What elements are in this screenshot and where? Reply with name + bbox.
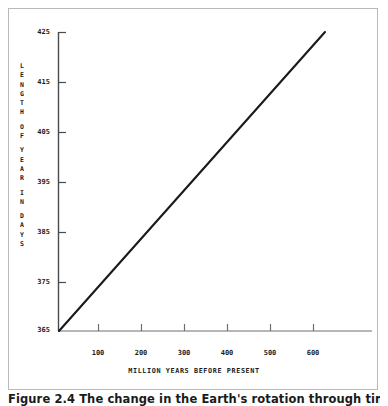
data-series-line xyxy=(59,32,325,331)
y-tick-marks xyxy=(59,33,67,283)
figure-caption: Figure 2.4 The change in the Earth's rot… xyxy=(8,392,380,406)
x-tick-marks xyxy=(99,324,314,331)
